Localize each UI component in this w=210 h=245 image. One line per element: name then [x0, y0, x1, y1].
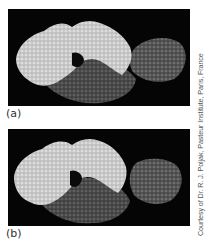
image-credit: Courtesy of Dr. R. J. Poljak, Pasteur In…	[196, 53, 205, 236]
panel-label-a: (a)	[6, 107, 21, 120]
panel-label-b: (b)	[6, 227, 22, 240]
molecular-model-panel-b	[8, 129, 190, 226]
molecular-model-panel-a	[8, 9, 190, 106]
protein-model-image-b	[8, 129, 190, 226]
protein-model-image-a	[8, 9, 190, 106]
